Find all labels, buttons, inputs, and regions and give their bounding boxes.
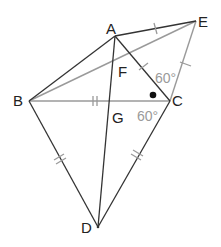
segment-CD [98, 101, 170, 227]
label-F: F [118, 63, 127, 80]
angle-label-ECA: 60° [155, 70, 176, 86]
label-D: D [81, 219, 92, 236]
segment-EC [170, 21, 196, 101]
segment-AB [29, 36, 115, 101]
label-C: C [172, 92, 183, 109]
label-B: B [13, 92, 23, 109]
geometry-diagram: A E B C D F G 60° 60° [0, 0, 221, 247]
label-E: E [198, 13, 208, 30]
label-A: A [106, 20, 116, 37]
angle-label-ACB: 60° [137, 108, 158, 124]
segment-BD [29, 101, 98, 227]
angle-dot-marker [150, 92, 157, 99]
label-G: G [112, 109, 124, 126]
point-D-dot [97, 226, 100, 229]
